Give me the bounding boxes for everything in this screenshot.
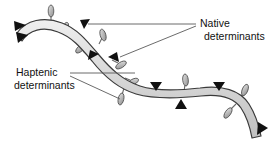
native-label-line1: Native bbox=[200, 17, 230, 29]
haptenic-determinant bbox=[112, 59, 128, 70]
figure-container: Native determinants Haptenic determinant… bbox=[0, 0, 278, 149]
native-determinant bbox=[257, 122, 268, 135]
haptenic-determinant bbox=[117, 88, 125, 105]
haptenic-label-line2: determinants bbox=[14, 79, 75, 91]
haptenic-determinants-label: Haptenic determinants bbox=[14, 66, 75, 91]
haptenic-determinant bbox=[222, 104, 236, 120]
native-determinant bbox=[175, 99, 187, 109]
haptenic-determinant bbox=[99, 28, 108, 44]
diagram-svg: Native determinants Haptenic determinant… bbox=[0, 0, 278, 149]
native-determinants-label: Native determinants bbox=[200, 17, 265, 42]
leader-line-native-2 bbox=[120, 26, 196, 57]
haptenic-label-line1: Haptenic bbox=[16, 66, 57, 78]
native-label-line2: determinants bbox=[204, 30, 265, 42]
